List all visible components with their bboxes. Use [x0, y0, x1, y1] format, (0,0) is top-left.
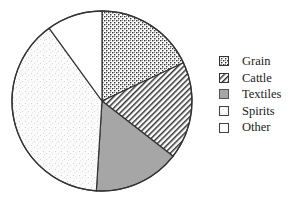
legend-label: Cattle — [242, 72, 272, 85]
textiles-swatch-icon — [219, 89, 229, 99]
legend-label: Spirits — [242, 105, 275, 118]
legend-label: Grain — [242, 55, 270, 68]
pie-slices — [12, 11, 192, 191]
legend-label: Other — [242, 121, 270, 134]
other-swatch-icon — [219, 123, 229, 133]
legend-item-other: Other — [219, 119, 281, 136]
legend-item-grain: Grain — [219, 53, 281, 70]
legend-item-textiles: Textiles — [219, 86, 281, 103]
legend-item-cattle: Cattle — [219, 70, 281, 87]
cattle-swatch-icon — [219, 73, 229, 83]
legend: Grain Cattle Textiles Spirits Other — [219, 53, 281, 136]
grain-swatch-icon — [219, 56, 229, 66]
spirits-swatch-icon — [219, 106, 229, 116]
legend-label: Textiles — [242, 88, 281, 101]
legend-item-spirits: Spirits — [219, 103, 281, 120]
